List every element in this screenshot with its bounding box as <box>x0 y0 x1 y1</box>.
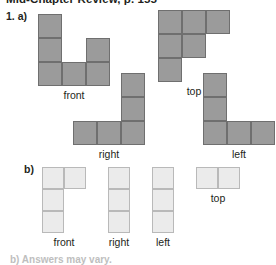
cube-cell <box>121 97 145 121</box>
figure-label-right: right <box>73 148 145 160</box>
figure-part-b-front: front <box>42 167 86 233</box>
cube-cell <box>152 211 174 233</box>
cube-grid <box>196 167 240 189</box>
cube-grid <box>42 167 86 233</box>
cube-cell <box>227 121 251 145</box>
cube-cell <box>251 121 275 145</box>
cube-cell <box>121 121 145 145</box>
cube-cell <box>97 121 121 145</box>
cube-cell <box>38 14 62 38</box>
cube-cell <box>86 38 110 62</box>
cube-cell <box>38 38 62 62</box>
part-a-letter: a) <box>18 10 27 22</box>
cube-cell <box>203 97 227 121</box>
cube-cell <box>158 34 182 58</box>
cube-cell <box>42 189 64 211</box>
cube-cell <box>206 10 230 34</box>
mid-chapter-review-header: Mid-Chapter Review, p. 155 <box>6 0 157 5</box>
figure-label-front: front <box>42 236 86 248</box>
cube-grid <box>108 167 130 233</box>
cube-cell <box>203 121 227 145</box>
question-1-part-b-label: b) <box>24 163 34 175</box>
cube-cell <box>152 189 174 211</box>
cube-cell <box>152 167 174 189</box>
figure-part-b-left: left <box>152 167 174 233</box>
figure-label-right: right <box>108 236 130 248</box>
cube-cell <box>182 34 206 58</box>
figure-part-a-left: left <box>203 73 275 145</box>
cube-cell <box>42 167 64 189</box>
cube-cell <box>38 62 62 86</box>
figure-label-top: top <box>196 192 240 204</box>
cube-cell <box>108 211 130 233</box>
figure-part-b-right: right <box>108 167 130 233</box>
cube-grid <box>158 10 230 82</box>
cube-cell <box>108 167 130 189</box>
cube-cell <box>218 167 240 189</box>
figure-label-left: left <box>152 236 174 248</box>
cube-cell <box>158 58 182 82</box>
cube-grid <box>203 73 275 145</box>
cube-cell <box>121 73 145 97</box>
question-number: 1. <box>6 10 15 22</box>
cube-cell <box>64 167 86 189</box>
cube-cell <box>42 211 64 233</box>
figure-part-a-right: right <box>73 73 145 145</box>
cube-grid <box>152 167 174 233</box>
figure-label-left: left <box>203 148 275 160</box>
cube-grid <box>73 73 145 145</box>
footer-clipped-text: b) Answers may vary. <box>10 254 112 265</box>
figure-part-b-top: top <box>196 167 240 189</box>
cube-cell <box>108 189 130 211</box>
cube-cell <box>182 10 206 34</box>
figure-part-a-top: top <box>158 10 230 82</box>
question-1-part-a-label: 1. a) <box>6 10 27 22</box>
cube-cell <box>73 121 97 145</box>
cube-cell <box>196 167 218 189</box>
cube-cell <box>203 73 227 97</box>
cube-cell <box>158 10 182 34</box>
